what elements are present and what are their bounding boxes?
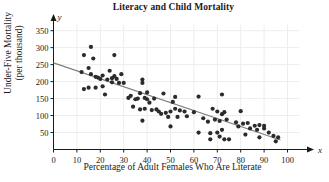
data-point (150, 108, 154, 112)
data-point (234, 120, 238, 124)
data-point (222, 110, 226, 114)
data-point (218, 119, 222, 123)
y-tick-label: 50 (40, 128, 49, 138)
chart-figure: Literacy and Child Mortality 50100150200… (0, 0, 329, 182)
data-point (82, 53, 86, 57)
data-point (241, 122, 245, 126)
data-point (236, 124, 240, 128)
data-point (101, 73, 105, 77)
data-point (168, 124, 172, 128)
data-point (211, 107, 215, 111)
data-point (119, 72, 123, 76)
data-point (108, 69, 112, 73)
data-point (227, 137, 231, 141)
data-point (255, 128, 259, 132)
data-point (89, 72, 93, 76)
data-point (103, 92, 107, 96)
data-point (101, 84, 105, 88)
data-point (105, 77, 109, 81)
data-point (182, 109, 186, 113)
data-point (87, 66, 91, 70)
data-point (164, 111, 168, 115)
data-point (91, 56, 95, 60)
data-point (122, 81, 126, 85)
data-point (257, 123, 261, 127)
data-point (215, 109, 219, 113)
data-point (253, 124, 257, 128)
data-point (166, 115, 170, 119)
y-tick-label: 350 (36, 26, 49, 36)
data-point (225, 118, 229, 122)
data-point (138, 91, 142, 95)
data-point (185, 114, 189, 118)
data-point (79, 70, 83, 74)
data-point (152, 96, 156, 100)
y-tick-label: 200 (36, 77, 49, 87)
data-point (87, 86, 91, 90)
x-axis-variable: x (317, 145, 322, 155)
y-tick-label: 300 (36, 43, 49, 53)
data-point (140, 119, 144, 123)
y-axis-label-line2: (per thousand) (14, 0, 25, 114)
data-point (115, 77, 119, 81)
data-point (159, 112, 163, 116)
data-point (206, 120, 210, 124)
data-point (171, 100, 175, 104)
data-point (220, 92, 224, 96)
data-point (147, 101, 151, 105)
data-point (131, 105, 135, 109)
data-point (136, 96, 140, 100)
data-point (168, 109, 172, 113)
data-point (246, 121, 250, 125)
data-point (222, 137, 226, 141)
data-point (276, 135, 280, 139)
x-axis-arrowhead (307, 147, 314, 153)
data-point (178, 108, 182, 112)
data-point (196, 130, 200, 134)
x-axis-label: Percentage of Adult Females Who Are Lite… (0, 162, 329, 172)
data-point (94, 86, 98, 90)
data-point (145, 90, 149, 94)
data-point (112, 53, 116, 57)
data-point (145, 97, 149, 101)
data-point (175, 115, 179, 119)
data-point (208, 137, 212, 141)
y-axis-label: Under-Five Mortality (per thousand) (3, 0, 25, 114)
data-point (173, 95, 177, 99)
data-point (140, 81, 144, 85)
y-axis-label-line1: Under-Five Mortality (3, 0, 14, 114)
data-point (243, 132, 247, 136)
y-tick-label: 100 (36, 111, 49, 121)
data-point (262, 124, 266, 128)
data-point (267, 130, 271, 134)
data-point (143, 107, 147, 111)
data-point (271, 134, 275, 138)
data-point (213, 118, 217, 122)
data-point (248, 126, 252, 130)
y-tick-label: 250 (36, 60, 49, 70)
data-point (239, 109, 243, 113)
data-point (201, 116, 205, 120)
data-point (192, 110, 196, 114)
data-point (110, 80, 114, 84)
data-point (117, 81, 121, 85)
data-point (173, 107, 177, 111)
axes (51, 14, 315, 153)
data-point (274, 139, 278, 143)
data-point (161, 91, 165, 95)
data-point (196, 94, 200, 98)
data-point (215, 130, 219, 134)
data-point (98, 77, 102, 81)
data-point (257, 135, 261, 139)
data-point (129, 94, 133, 98)
data-point (208, 131, 212, 135)
data-point (218, 135, 222, 139)
trend-line (54, 63, 281, 140)
data-point (82, 87, 86, 91)
data-point (220, 128, 224, 132)
y-axis-arrowhead (51, 14, 57, 21)
data-point (138, 107, 142, 111)
data-point (89, 45, 93, 49)
y-axis-variable: y (57, 12, 62, 22)
scatter-plot: 5010015020025030035001020304050607080901… (0, 0, 329, 182)
